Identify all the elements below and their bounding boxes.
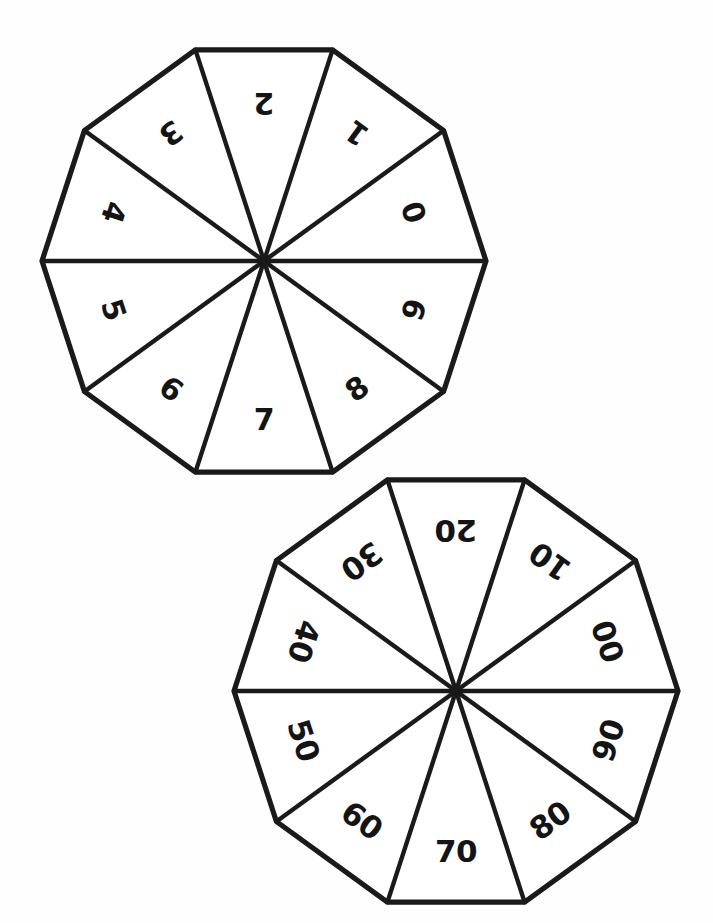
spinners-canvas: 0123456789 00102030405060708090 <box>0 0 713 923</box>
units-spinner[interactable]: 0123456789 <box>42 50 486 472</box>
tens-spinner-sector-label: 70 <box>435 833 477 869</box>
units-spinner-sector-label: 7 <box>254 402 274 437</box>
worksheet-page: 0123456789 00102030405060708090 <box>0 0 713 923</box>
tens-spinner-sector-label: 20 <box>435 513 477 549</box>
tens-spinner[interactable]: 00102030405060708090 <box>234 480 678 902</box>
units-spinner-sector-label: 2 <box>254 86 274 121</box>
